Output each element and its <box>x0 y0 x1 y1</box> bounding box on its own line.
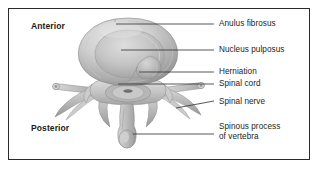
vertebra-body <box>53 77 205 148</box>
label-herniation: Herniation <box>219 67 257 77</box>
spinal-cord-center <box>124 89 133 93</box>
label-nucleus-pulposus: Nucleus pulposus <box>219 45 284 55</box>
label-spinal-nerve: Spinal nerve <box>219 97 265 107</box>
orientation-label-anterior: Anterior <box>31 21 65 31</box>
label-spinal-cord: Spinal cord <box>219 79 261 89</box>
label-spinous-line2: of vertebra <box>219 132 280 142</box>
label-spinous-process: Spinous process of vertebra <box>219 122 280 142</box>
intervertebral-disc <box>78 18 177 86</box>
figure-container: Anterior Posterior Anulus fibrosus Nucle… <box>0 0 319 169</box>
orientation-label-posterior: Posterior <box>31 123 69 133</box>
label-spinous-line1: Spinous process <box>219 122 280 131</box>
label-anulus-fibrosus: Anulus fibrosus <box>219 19 276 29</box>
